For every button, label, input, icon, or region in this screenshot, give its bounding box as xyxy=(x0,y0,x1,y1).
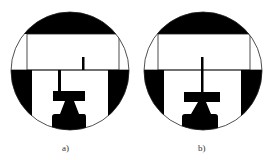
upper-rectangle xyxy=(158,34,250,70)
left-band xyxy=(133,70,164,160)
left-band xyxy=(0,70,32,160)
right-band xyxy=(241,70,271,160)
top-cap xyxy=(133,0,271,34)
caption-b: b) xyxy=(198,143,206,153)
top-cap xyxy=(0,0,140,34)
caption-a: a) xyxy=(62,143,69,153)
t-bar xyxy=(53,91,85,101)
figure-a-diagram xyxy=(0,0,140,160)
figure-b xyxy=(133,0,271,160)
stem xyxy=(58,70,61,92)
t-bar xyxy=(184,92,220,102)
upper-rectangle xyxy=(27,34,119,70)
figure-b-diagram xyxy=(133,0,271,160)
figure-a xyxy=(0,0,140,160)
upper-tick xyxy=(82,57,85,70)
stem xyxy=(201,57,204,93)
